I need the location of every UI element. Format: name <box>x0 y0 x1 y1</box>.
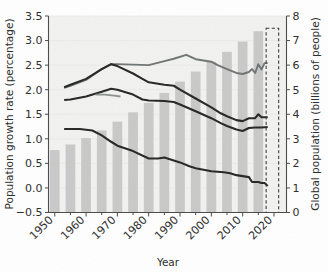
population-growth-chart: −0.50.00.51.01.52.02.53.03.5 012345678 1… <box>0 0 328 272</box>
scan-grain-overlay <box>0 0 328 272</box>
chart-canvas: −0.50.00.51.01.52.02.53.03.5 012345678 1… <box>0 0 328 272</box>
